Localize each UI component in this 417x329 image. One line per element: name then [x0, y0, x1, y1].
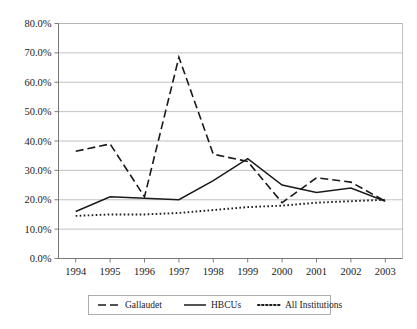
y-axis-tick-label: 20.0% — [24, 194, 51, 205]
x-axis-ticks — [76, 259, 386, 263]
x-axis-tick-label: 2000 — [272, 266, 293, 277]
chart-container: 0.0%10.0%20.0%30.0%40.0%50.0%60.0%70.0%8… — [0, 0, 417, 329]
x-axis-tick-label: 2002 — [340, 266, 361, 277]
legend-label-all-institutions: All Institutions — [285, 300, 343, 310]
x-axis-tick-label: 1997 — [168, 266, 189, 277]
y-axis-tick-label: 10.0% — [24, 224, 51, 235]
plot-gridlines — [59, 24, 403, 230]
x-axis-tick-label: 1998 — [203, 266, 224, 277]
y-axis-tick-label: 30.0% — [24, 165, 51, 176]
x-axis-tick-label: 2003 — [375, 266, 396, 277]
x-axis-tick-label: 1999 — [237, 266, 258, 277]
line-chart: 0.0%10.0%20.0%30.0%40.0%50.0%60.0%70.0%8… — [0, 0, 417, 329]
y-axis-tick-label: 40.0% — [24, 136, 51, 147]
x-axis-tick-label: 1994 — [65, 266, 87, 277]
y-axis-tick-label: 70.0% — [24, 47, 51, 58]
series-line-gallaudet — [76, 57, 386, 202]
y-axis-tick-labels: 0.0%10.0%20.0%30.0%40.0%50.0%60.0%70.0%8… — [24, 18, 51, 264]
series-line-hbcus — [76, 159, 386, 212]
y-axis-tick-label: 0.0% — [30, 253, 52, 264]
x-axis-tick-label: 1995 — [100, 266, 121, 277]
x-axis-tick-label: 2001 — [306, 266, 327, 277]
data-series-group — [76, 57, 386, 216]
x-axis-tick-labels: 1994199519961997199819992000200120022003 — [65, 266, 396, 277]
y-axis-tick-label: 50.0% — [24, 106, 51, 117]
y-axis-tick-label: 80.0% — [24, 18, 51, 29]
legend-label-hbcus: HBCUs — [211, 300, 241, 310]
x-axis-tick-label: 1996 — [134, 266, 155, 277]
y-axis-tick-label: 60.0% — [24, 77, 51, 88]
series-line-all-institutions — [76, 200, 386, 216]
legend-label-gallaudet: Gallaudet — [125, 300, 162, 310]
y-axis-ticks — [55, 24, 59, 259]
chart-legend: GallaudetHBCUsAll Institutions — [89, 296, 343, 315]
